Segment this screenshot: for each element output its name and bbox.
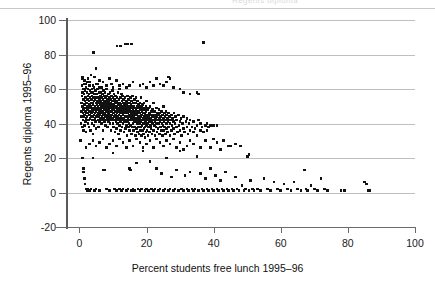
data-point [85, 83, 88, 86]
data-point [100, 86, 103, 89]
cropped-header-text: Regents diploma [232, 0, 298, 5]
data-point [88, 126, 91, 129]
data-point [155, 77, 158, 80]
data-point [162, 105, 165, 108]
data-point [196, 155, 199, 158]
data-point [165, 139, 168, 142]
data-point [81, 76, 84, 79]
data-point [119, 129, 122, 132]
data-point [105, 188, 108, 191]
data-point [90, 188, 93, 191]
data-point [105, 84, 108, 87]
data-point [142, 150, 145, 153]
data-point [248, 189, 251, 192]
data-point [174, 122, 177, 125]
data-point [122, 188, 125, 191]
x-axis-line [56, 227, 415, 228]
data-point [117, 91, 120, 94]
data-point [152, 146, 155, 149]
data-point [88, 81, 91, 84]
data-point [214, 174, 217, 177]
data-point [175, 146, 178, 149]
data-point [152, 129, 155, 132]
data-point [135, 138, 138, 141]
data-point [108, 189, 111, 192]
y-tick-mark [59, 55, 66, 56]
data-point [145, 143, 148, 146]
y-tick-mark [59, 20, 66, 21]
x-tick-label: 40 [194, 238, 234, 248]
data-point [93, 76, 96, 79]
data-point [207, 189, 210, 192]
data-point [182, 115, 185, 118]
data-point [216, 141, 219, 144]
x-tick-mark [147, 227, 148, 233]
data-point [154, 188, 157, 191]
data-point [88, 84, 91, 87]
plot-area [66, 20, 415, 227]
data-point [313, 188, 316, 191]
data-point [199, 129, 202, 132]
data-point [166, 131, 169, 134]
data-point [167, 126, 170, 129]
data-point [172, 86, 175, 89]
data-point [212, 189, 215, 192]
data-point [197, 119, 200, 122]
data-point [97, 126, 100, 129]
data-point [118, 84, 121, 87]
data-point [117, 133, 120, 136]
data-point [85, 146, 88, 149]
data-point [259, 189, 262, 192]
data-point [154, 134, 157, 137]
data-point [256, 188, 259, 191]
data-point [172, 127, 175, 130]
y-tick-mark [59, 158, 66, 159]
data-point [116, 45, 119, 48]
data-point [300, 189, 303, 192]
data-point [147, 134, 150, 137]
data-point [202, 41, 205, 44]
data-point [92, 139, 95, 142]
data-point [122, 83, 125, 86]
data-point [173, 112, 176, 115]
data-point [79, 139, 82, 142]
data-point [227, 145, 230, 148]
data-point [188, 122, 191, 125]
data-point [81, 157, 84, 160]
data-point [133, 189, 136, 192]
data-point [92, 84, 95, 87]
data-point [112, 152, 115, 155]
x-tick-mark [348, 227, 349, 233]
data-point [234, 143, 237, 146]
data-point [165, 81, 168, 84]
data-point [160, 172, 163, 175]
data-point [105, 88, 108, 91]
data-point [130, 43, 133, 46]
data-point [149, 160, 152, 163]
data-point [88, 143, 91, 146]
data-point [102, 81, 105, 84]
data-point [142, 83, 145, 86]
data-point [159, 83, 162, 86]
data-point [179, 150, 182, 153]
data-point [87, 77, 90, 80]
data-point [179, 141, 182, 144]
data-point [92, 157, 95, 160]
data-point [340, 189, 343, 192]
data-point [145, 86, 148, 89]
data-point [112, 86, 115, 89]
data-point [192, 131, 195, 134]
data-point [238, 189, 241, 192]
data-point [172, 138, 175, 141]
data-point [102, 129, 105, 132]
data-point [93, 124, 96, 127]
data-point [162, 145, 165, 148]
data-point [196, 134, 199, 137]
data-point [98, 79, 101, 82]
data-point [209, 124, 212, 127]
x-tick-mark [415, 227, 416, 233]
data-point [122, 141, 125, 144]
data-point [134, 134, 137, 137]
data-point [199, 122, 202, 125]
y-tick-mark [59, 89, 66, 90]
